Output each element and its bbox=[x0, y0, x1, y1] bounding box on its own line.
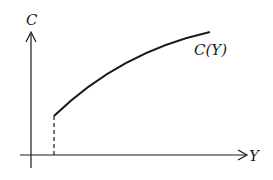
x-axis-label: Y bbox=[249, 147, 261, 165]
y-axis-label: C bbox=[26, 11, 38, 29]
consumption-curve bbox=[54, 32, 210, 116]
curve-label: C(Y) bbox=[194, 41, 227, 59]
diagram-canvas: C C(Y) Y bbox=[0, 0, 273, 180]
